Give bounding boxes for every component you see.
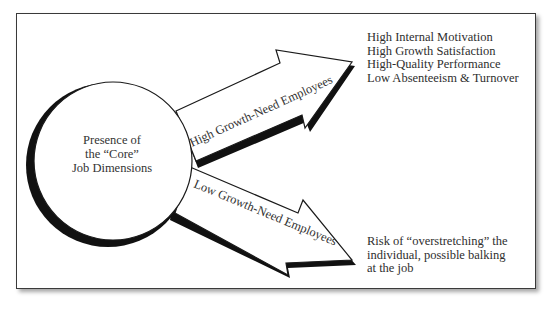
outcome-item: Low Absenteeism & Turnover — [367, 72, 519, 86]
core-label-line: Presence of — [62, 133, 162, 147]
outcome-item: individual, possible balking — [367, 249, 508, 263]
outcome-item: Risk of “overstretching” the — [367, 235, 508, 249]
outcome-item: High Growth Satisfaction — [367, 45, 519, 59]
core-label-line: the “Core” — [62, 147, 162, 161]
high-growth-outcomes: High Internal Motivation High Growth Sat… — [367, 31, 519, 85]
outcome-item: at the job — [367, 262, 508, 276]
core-label-line: Job Dimensions — [62, 161, 162, 175]
outcome-item: High Internal Motivation — [367, 31, 519, 45]
core-dimensions-label: Presence of the “Core” Job Dimensions — [62, 133, 162, 175]
low-growth-outcomes: Risk of “overstretching” the individual,… — [367, 235, 508, 276]
outcome-item: High-Quality Performance — [367, 58, 519, 72]
